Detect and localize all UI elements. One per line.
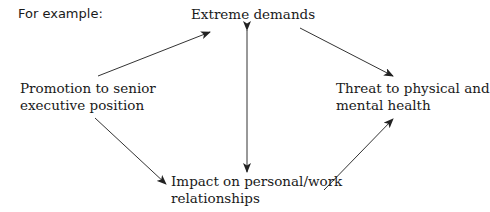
node-extreme-demands: Extreme demands: [191, 6, 315, 22]
node-promotion-line-1: Promotion to senior: [20, 80, 156, 96]
node-threat-line-2: mental health: [336, 97, 431, 113]
arrow-promotion-to-demands: [98, 32, 210, 76]
intro-label: For example:: [18, 6, 103, 22]
node-impact-line-2: relationships: [171, 190, 260, 206]
arrow-promotion-to-impact: [95, 118, 166, 184]
node-promotion-line-2: executive position: [20, 97, 144, 113]
arrow-demands-to-threat: [300, 28, 393, 76]
node-impact-line-1: Impact on personal/work: [171, 173, 342, 189]
node-threat-line-1: Threat to physical and: [336, 80, 490, 96]
